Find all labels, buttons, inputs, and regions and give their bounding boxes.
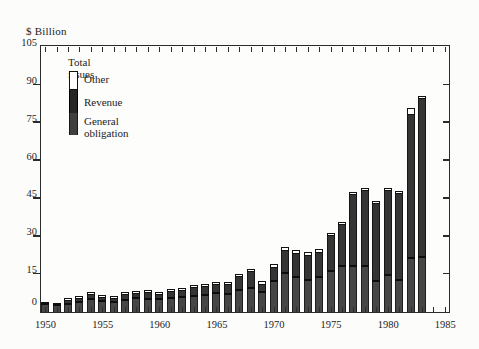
- year-tick-bottom-1975: [331, 307, 332, 312]
- bar-1950: [41, 47, 49, 312]
- x-axis-label-1965: 1965: [197, 319, 237, 331]
- year-tick-top-1967: [239, 47, 240, 52]
- bar-1955: [98, 47, 106, 312]
- year-tick-bottom-1965: [216, 307, 217, 312]
- bar-1980-revenue: [384, 191, 392, 276]
- bar-1966-revenue: [224, 285, 232, 295]
- year-tick-bottom-1977: [353, 307, 354, 312]
- year-tick-top-1979: [376, 47, 377, 52]
- y-axis-label-105: 105: [10, 36, 37, 49]
- bar-1981: [395, 47, 403, 312]
- bar-1975: [327, 47, 335, 312]
- year-tick-bottom-1983: [422, 307, 423, 312]
- bar-1978: [361, 47, 369, 312]
- year-tick-top-1965: [216, 47, 217, 52]
- year-tick-top-1975: [331, 47, 332, 52]
- legend-label-general-obligation: General obligation: [84, 115, 129, 139]
- bar-1972: [292, 47, 300, 312]
- year-tick-top-1963: [194, 47, 195, 52]
- year-tick-top-1976: [342, 47, 343, 52]
- year-tick-bottom-1950: [45, 307, 46, 312]
- bar-1974-revenue: [315, 253, 323, 278]
- year-tick-bottom-1978: [365, 307, 366, 312]
- bar-1972-revenue: [292, 254, 300, 279]
- year-tick-bottom-1953: [79, 307, 80, 312]
- x-axis-label-1950: 1950: [26, 319, 66, 331]
- year-tick-top-1972: [296, 47, 297, 52]
- bar-1982-other: [407, 108, 415, 115]
- year-tick-bottom-1973: [308, 307, 309, 312]
- year-tick-bottom-1954: [91, 307, 92, 312]
- y-tick-right-75: [443, 121, 449, 123]
- bar-1964-revenue: [201, 287, 209, 296]
- bar-1951: [53, 47, 61, 312]
- year-tick-top-1983: [422, 47, 423, 52]
- bar-1960: [155, 47, 163, 312]
- bar-1959: [144, 47, 152, 312]
- bar-1982-general-obligation: [407, 259, 415, 312]
- bar-1980: [384, 47, 392, 312]
- year-tick-top-1962: [182, 47, 183, 52]
- year-tick-bottom-1979: [376, 307, 377, 312]
- year-tick-bottom-1955: [102, 307, 103, 312]
- year-tick-top-1951: [57, 47, 58, 52]
- bar-1971: [281, 47, 289, 312]
- x-axis-label-1955: 1955: [83, 319, 123, 331]
- x-axis-label-1960: 1960: [140, 319, 180, 331]
- year-tick-bottom-1972: [296, 307, 297, 312]
- year-tick-top-1961: [171, 47, 172, 52]
- year-tick-top-1964: [205, 47, 206, 52]
- year-tick-bottom-1982: [411, 307, 412, 312]
- bar-1983: [418, 47, 426, 312]
- bar-1958: [132, 47, 140, 312]
- bar-1979: [372, 47, 380, 312]
- year-tick-bottom-1951: [57, 307, 58, 312]
- year-tick-top-1985: [445, 47, 446, 52]
- bar-1976-general-obligation: [338, 267, 346, 312]
- bar-1961: [167, 47, 175, 312]
- year-tick-bottom-1969: [262, 307, 263, 312]
- x-axis-label-1985: 1985: [425, 319, 465, 331]
- bar-1978-general-obligation: [361, 267, 369, 312]
- legend-swatch-other: [69, 71, 78, 90]
- bar-1969-revenue: [258, 285, 266, 293]
- bar-1957: [121, 47, 129, 312]
- year-tick-top-1959: [148, 47, 149, 52]
- bar-1977-revenue: [349, 195, 357, 266]
- year-tick-top-1970: [274, 47, 275, 52]
- bar-1983-revenue: [418, 99, 426, 258]
- bar-1968-revenue: [247, 272, 255, 289]
- bar-1969: [258, 47, 266, 312]
- year-tick-bottom-1968: [251, 307, 252, 312]
- year-tick-top-1952: [68, 47, 69, 52]
- legend-label-revenue: Revenue: [84, 96, 122, 108]
- plot-area: [40, 45, 450, 313]
- year-tick-top-1950: [45, 47, 46, 52]
- legend-label-other: Other: [84, 73, 109, 85]
- y-tick-left-75: [33, 121, 40, 123]
- year-tick-bottom-1960: [159, 307, 160, 312]
- year-tick-bottom-1958: [136, 307, 137, 312]
- year-tick-bottom-1956: [114, 307, 115, 312]
- year-tick-top-1980: [388, 47, 389, 52]
- year-tick-top-1955: [102, 47, 103, 52]
- year-tick-bottom-1964: [205, 307, 206, 312]
- y-tick-right-45: [443, 197, 449, 199]
- year-tick-bottom-1981: [399, 307, 400, 312]
- year-tick-top-1953: [79, 47, 80, 52]
- municipal-bond-issues-chart: $ Billion Total issues Other Revenue Gen…: [0, 0, 479, 349]
- year-tick-bottom-1966: [228, 307, 229, 312]
- year-tick-top-1968: [251, 47, 252, 52]
- y-tick-right-15: [443, 273, 449, 275]
- bar-1967-revenue: [235, 277, 243, 291]
- bar-1979-revenue: [372, 204, 380, 282]
- year-tick-top-1973: [308, 47, 309, 52]
- year-tick-top-1956: [114, 47, 115, 52]
- bar-1959-revenue: [144, 293, 152, 300]
- bar-1967: [235, 47, 243, 312]
- year-tick-bottom-1961: [171, 307, 172, 312]
- bar-1956: [110, 47, 118, 312]
- y-tick-left-60: [33, 159, 40, 161]
- bar-1963-revenue: [190, 288, 198, 298]
- bar-1981-revenue: [395, 194, 403, 280]
